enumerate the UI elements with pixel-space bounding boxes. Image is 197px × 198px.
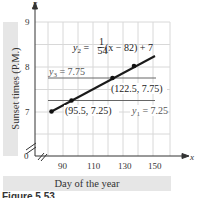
x-tick-90: 90 [58,161,68,171]
x-tick-130: 130 [118,161,132,171]
chart-plot: y x 9 8 7 0 90 110 130 150 y2 = 1 54 (x … [0,0,197,198]
y-tick-0: 0 [24,151,29,161]
y-axis-symbol: y [32,0,37,8]
x-axis-symbol: x [189,152,194,162]
point-label-upper: (122.5, 7.75) [111,83,163,95]
svg-text:(x − 82) + 7: (x − 82) + 7 [105,42,153,54]
x-axis-label: Day of the year [3,176,171,191]
y-tick-9: 9 [25,17,30,27]
svg-text:y2 =: y2 = [72,42,89,55]
y-tick-7: 7 [25,107,30,117]
y2-equation: y2 = 1 54 (x − 82) + 7 [72,36,153,56]
y3-label: y3 = 7.75 [48,66,85,79]
figure-caption: Figure 5.53 [2,191,55,198]
x-tick-150: 150 [148,161,162,171]
x-tick-110: 110 [87,161,101,171]
point-label-lower: (95.5, 7.25) [65,105,112,117]
y-tick-8: 8 [25,62,30,72]
